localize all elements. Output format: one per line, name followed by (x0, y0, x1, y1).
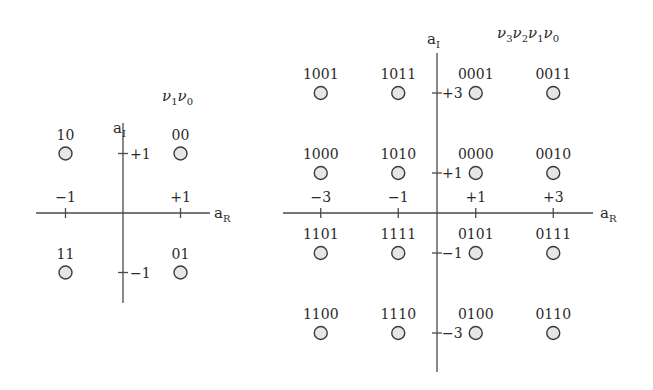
x-tick-label: −1 (55, 189, 76, 205)
constellation-point (469, 167, 482, 180)
point-bit-label: 0100 (458, 306, 494, 322)
x-tick-label: +3 (543, 189, 564, 205)
y-tick-label: +1 (130, 146, 151, 162)
point-bit-label: 0000 (458, 146, 494, 162)
point-bit-label: 0111 (535, 226, 571, 242)
constellation-point (314, 167, 327, 180)
point-bit-label: 0110 (535, 306, 571, 322)
constellation-point (59, 266, 72, 279)
point-bit-label: 0001 (458, 66, 494, 82)
constellation-point (469, 87, 482, 100)
y-tick-label: +1 (442, 165, 463, 181)
point-bit-label: 1010 (380, 146, 416, 162)
constellation-point (314, 87, 327, 100)
bit-order-label: ν3ν2ν1ν0 (497, 24, 559, 44)
constellation-point (314, 327, 327, 340)
constellation-point (547, 167, 560, 180)
constellation-point (174, 266, 187, 279)
y-tick-label: +3 (442, 85, 463, 101)
point-bit-label: 1101 (303, 226, 339, 242)
point-bit-label: 1000 (303, 146, 339, 162)
point-bit-label: 01 (172, 246, 190, 262)
constellation-diagrams: aRaIν1ν0−1+1+1−110001101 aRaIν3ν2ν1ν0−3−… (0, 0, 653, 390)
constellation-point (174, 147, 187, 160)
qam16-constellation: aRaIν3ν2ν1ν0−3−1+1+3+3+1−1−3100110110001… (283, 24, 617, 372)
x-tick-label: −1 (388, 189, 409, 205)
y-axis-label: aI (427, 30, 440, 50)
point-bit-label: 10 (57, 127, 75, 143)
point-bit-label: 0101 (458, 226, 494, 242)
point-bit-label: 1001 (303, 66, 339, 82)
y-tick-label: −1 (442, 245, 463, 261)
point-bit-label: 00 (172, 127, 190, 143)
constellation-point (392, 247, 405, 260)
constellation-point (547, 247, 560, 260)
x-axis-label: aR (600, 204, 617, 224)
constellation-point (392, 167, 405, 180)
constellation-point (392, 87, 405, 100)
constellation-point (392, 327, 405, 340)
point-bit-label: 11 (57, 246, 75, 262)
bit-order-label: ν1ν0 (162, 87, 193, 107)
point-bit-label: 1100 (303, 306, 339, 322)
x-tick-label: +1 (170, 189, 191, 205)
qpsk-constellation: aRaIν1ν0−1+1+1−110001101 (36, 87, 231, 303)
y-tick-label: −1 (130, 265, 151, 281)
point-bit-label: 1111 (380, 226, 416, 242)
x-tick-label: −3 (310, 189, 331, 205)
constellation-point (314, 247, 327, 260)
y-axis-label: aI (113, 119, 126, 139)
point-bit-label: 1110 (380, 306, 416, 322)
constellation-point (469, 327, 482, 340)
x-axis-label: aR (214, 204, 231, 224)
point-bit-label: 0010 (535, 146, 571, 162)
constellation-point (547, 87, 560, 100)
point-bit-label: 0011 (535, 66, 571, 82)
y-tick-label: −3 (442, 325, 463, 341)
constellation-point (59, 147, 72, 160)
constellation-point (469, 247, 482, 260)
x-tick-label: +1 (465, 189, 486, 205)
point-bit-label: 1011 (380, 66, 416, 82)
constellation-point (547, 327, 560, 340)
